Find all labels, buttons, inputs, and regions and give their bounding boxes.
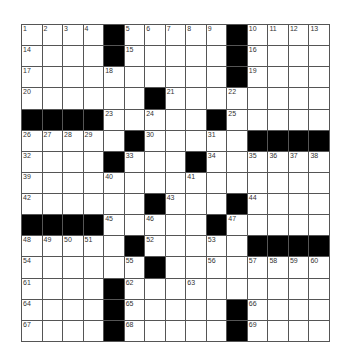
answer-cell[interactable]	[268, 88, 288, 108]
answer-cell[interactable]	[289, 279, 309, 299]
answer-cell[interactable]: 34	[207, 152, 227, 172]
answer-cell[interactable]	[43, 46, 63, 66]
answer-cell[interactable]	[309, 110, 329, 130]
answer-cell[interactable]	[186, 46, 206, 66]
answer-cell[interactable]	[186, 321, 206, 341]
answer-cell[interactable]: 2	[43, 25, 63, 45]
answer-cell[interactable]: 68	[125, 321, 145, 341]
answer-cell[interactable]: 55	[125, 257, 145, 277]
answer-cell[interactable]	[84, 300, 104, 320]
answer-cell[interactable]: 30	[145, 131, 165, 151]
answer-cell[interactable]	[63, 46, 83, 66]
answer-cell[interactable]: 21	[166, 88, 186, 108]
answer-cell[interactable]: 9	[207, 25, 227, 45]
answer-cell[interactable]: 18	[104, 67, 124, 87]
answer-cell[interactable]: 4	[84, 25, 104, 45]
answer-cell[interactable]	[166, 110, 186, 130]
answer-cell[interactable]	[207, 194, 227, 214]
answer-cell[interactable]	[227, 152, 247, 172]
answer-cell[interactable]	[309, 215, 329, 235]
answer-cell[interactable]: 28	[63, 131, 83, 151]
answer-cell[interactable]: 31	[207, 131, 227, 151]
answer-cell[interactable]: 61	[22, 279, 42, 299]
answer-cell[interactable]	[248, 88, 268, 108]
answer-cell[interactable]	[166, 321, 186, 341]
answer-cell[interactable]: 3	[63, 25, 83, 45]
answer-cell[interactable]	[63, 257, 83, 277]
answer-cell[interactable]	[227, 236, 247, 256]
answer-cell[interactable]	[43, 257, 63, 277]
answer-cell[interactable]: 47	[227, 215, 247, 235]
answer-cell[interactable]	[125, 110, 145, 130]
answer-cell[interactable]	[63, 321, 83, 341]
answer-cell[interactable]: 25	[227, 110, 247, 130]
answer-cell[interactable]	[186, 215, 206, 235]
answer-cell[interactable]	[248, 279, 268, 299]
answer-cell[interactable]: 10	[248, 25, 268, 45]
answer-cell[interactable]	[166, 46, 186, 66]
answer-cell[interactable]: 67	[22, 321, 42, 341]
answer-cell[interactable]	[207, 46, 227, 66]
answer-cell[interactable]: 35	[248, 152, 268, 172]
answer-cell[interactable]	[227, 131, 247, 151]
answer-cell[interactable]: 13	[309, 25, 329, 45]
answer-cell[interactable]: 41	[186, 173, 206, 193]
answer-cell[interactable]	[186, 257, 206, 277]
answer-cell[interactable]: 26	[22, 131, 42, 151]
answer-cell[interactable]: 46	[145, 215, 165, 235]
answer-cell[interactable]	[268, 46, 288, 66]
answer-cell[interactable]	[63, 300, 83, 320]
answer-cell[interactable]: 7	[166, 25, 186, 45]
answer-cell[interactable]	[309, 321, 329, 341]
answer-cell[interactable]: 39	[22, 173, 42, 193]
answer-cell[interactable]	[145, 300, 165, 320]
answer-cell[interactable]	[309, 88, 329, 108]
answer-cell[interactable]	[268, 215, 288, 235]
answer-cell[interactable]	[309, 300, 329, 320]
answer-cell[interactable]: 60	[309, 257, 329, 277]
answer-cell[interactable]	[43, 152, 63, 172]
answer-cell[interactable]: 38	[309, 152, 329, 172]
answer-cell[interactable]	[268, 279, 288, 299]
answer-cell[interactable]: 24	[145, 110, 165, 130]
answer-cell[interactable]	[63, 194, 83, 214]
answer-cell[interactable]	[84, 173, 104, 193]
answer-cell[interactable]	[43, 321, 63, 341]
answer-cell[interactable]	[248, 110, 268, 130]
answer-cell[interactable]	[84, 88, 104, 108]
answer-cell[interactable]	[166, 257, 186, 277]
answer-cell[interactable]	[43, 279, 63, 299]
answer-cell[interactable]	[186, 236, 206, 256]
answer-cell[interactable]	[309, 173, 329, 193]
answer-cell[interactable]: 27	[43, 131, 63, 151]
answer-cell[interactable]	[186, 194, 206, 214]
answer-cell[interactable]	[84, 152, 104, 172]
answer-cell[interactable]: 5	[125, 25, 145, 45]
answer-cell[interactable]	[104, 194, 124, 214]
answer-cell[interactable]	[104, 88, 124, 108]
answer-cell[interactable]	[84, 257, 104, 277]
answer-cell[interactable]	[186, 110, 206, 130]
answer-cell[interactable]	[125, 173, 145, 193]
answer-cell[interactable]	[186, 131, 206, 151]
answer-cell[interactable]	[145, 152, 165, 172]
answer-cell[interactable]: 17	[22, 67, 42, 87]
answer-cell[interactable]	[207, 173, 227, 193]
answer-cell[interactable]	[125, 215, 145, 235]
answer-cell[interactable]	[227, 257, 247, 277]
answer-cell[interactable]: 48	[22, 236, 42, 256]
answer-cell[interactable]: 49	[43, 236, 63, 256]
answer-cell[interactable]	[84, 67, 104, 87]
answer-cell[interactable]	[125, 67, 145, 87]
answer-cell[interactable]	[248, 215, 268, 235]
answer-cell[interactable]	[166, 236, 186, 256]
answer-cell[interactable]	[84, 46, 104, 66]
answer-cell[interactable]	[207, 88, 227, 108]
answer-cell[interactable]: 1	[22, 25, 42, 45]
answer-cell[interactable]	[43, 67, 63, 87]
answer-cell[interactable]	[268, 67, 288, 87]
answer-cell[interactable]	[186, 88, 206, 108]
answer-cell[interactable]: 23	[104, 110, 124, 130]
answer-cell[interactable]: 29	[84, 131, 104, 151]
answer-cell[interactable]	[125, 194, 145, 214]
